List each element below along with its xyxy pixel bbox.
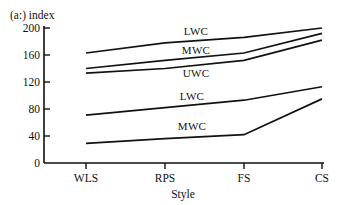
y-tick-label-200: 200	[23, 22, 41, 34]
x-tick-marks	[86, 163, 322, 169]
x-tick-label-cs: CS	[315, 172, 329, 184]
series-label-lower-lwc: LWC	[180, 90, 205, 102]
series-label-lower-mwc: MWC	[178, 120, 206, 132]
x-tick-label-rps: RPS	[155, 172, 175, 184]
series-label-upper-uwc: UWC	[183, 67, 210, 79]
series-label-upper-mwc: MWC	[182, 44, 210, 56]
x-axis-title: Style	[171, 188, 195, 201]
x-tick-label-fs: FS	[238, 172, 251, 184]
series-label-upper-lwc: LWC	[184, 25, 209, 37]
y-tick-marks	[44, 28, 50, 136]
chart-container: (a:) index 200 160 120 80 40 0 WLS RPS	[0, 0, 339, 205]
y-tick-label-40: 40	[29, 130, 41, 142]
y-tick-label-80: 80	[29, 103, 41, 115]
page-title: (a:) index	[10, 9, 55, 22]
y-tick-label-160: 160	[23, 49, 41, 61]
y-tick-label-120: 120	[23, 76, 41, 88]
y-tick-label-0: 0	[34, 157, 40, 169]
line-chart: (a:) index 200 160 120 80 40 0 WLS RPS	[0, 0, 339, 205]
x-tick-label-wls: WLS	[74, 172, 98, 184]
